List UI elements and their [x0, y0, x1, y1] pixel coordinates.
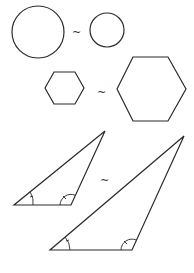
small-hexagon — [45, 72, 84, 104]
triangle-pair: ~ — [14, 131, 184, 250]
hexagon-pair: ~ — [45, 57, 186, 121]
diagram-svg: ~ ~ ~ — [0, 0, 194, 273]
similar-figures-diagram: ~ ~ ~ — [0, 0, 194, 273]
similarity-symbol: ~ — [72, 26, 81, 39]
angle-arc-left — [30, 192, 33, 205]
large-triangle — [50, 136, 184, 250]
large-hexagon — [117, 57, 186, 121]
large-triangle-outline — [50, 136, 184, 250]
small-circle — [90, 13, 124, 47]
small-triangle-outline — [14, 131, 105, 205]
circle-pair: ~ — [12, 6, 124, 58]
small-triangle — [14, 131, 105, 205]
similarity-symbol: ~ — [100, 174, 109, 187]
angle-arc-left — [65, 237, 70, 250]
large-circle — [12, 6, 64, 58]
similarity-symbol: ~ — [97, 86, 106, 99]
angle-tick-left — [66, 240, 69, 241]
